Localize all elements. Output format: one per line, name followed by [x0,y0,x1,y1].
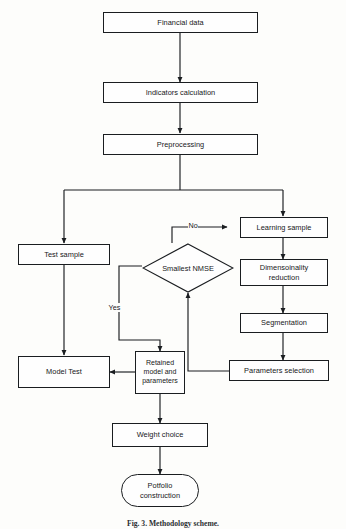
node-learning-sample: Learning sample [240,217,328,238]
node-weight-choice: Weight choice [112,423,208,447]
node-label-line2: construction [140,491,180,500]
node-label-line1: Retained [146,359,174,368]
node-dimensionality-reduction: Dimensoinality reduction [240,259,328,286]
node-label-line2: reduction [269,273,300,282]
node-label: Test sample [44,250,84,259]
node-label: Weight choice [137,430,184,439]
node-model-test: Model Test [18,356,110,388]
node-label: Financial data [157,18,203,27]
node-preprocessing: Preprocessing [103,134,258,155]
node-smallest-nmse: Smallest NMSE [142,243,234,293]
node-indicators-calculation: Indicators calculation [103,82,258,103]
node-label: Segmentation [261,318,307,327]
node-label: Learning sample [257,223,312,232]
edge-parameters-to-smallest-nmse [188,293,229,371]
node-parameters-selection: Parameters selection [229,360,329,381]
node-label: Model Test [46,367,82,376]
node-label: Preprocessing [157,140,205,149]
node-label: Smallest NMSE [162,264,214,273]
node-label-line1: Potfolio [148,481,173,490]
node-label: Indicators calculation [146,88,215,97]
node-segmentation: Segmentation [240,313,328,333]
node-financial-data: Financial data [103,12,258,33]
node-label: Parameters selection [244,366,314,375]
node-label-line1: Dimensoinality [260,263,308,272]
node-portfolio-construction: Potfolio construction [121,474,199,507]
flowchart-figure: Financial data Indicators calculation Pr… [0,0,346,529]
figure-caption: Fig. 3. Methodology scheme. [0,519,346,528]
node-retained-model: Retained model and parameters [135,351,185,394]
edge-label-no: No [188,221,198,230]
edge-no-to-learning-sample [172,227,227,243]
node-test-sample: Test sample [18,244,110,265]
node-label-line3: parameters [142,377,178,386]
node-label-line2: model and [144,368,177,377]
edge-label-yes: Yes [108,303,121,312]
